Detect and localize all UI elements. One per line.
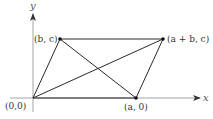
y-axis-label: y [29,0,36,11]
parallelogram-diagram: x y (0,0) (a, 0) (b, c) (a + b, c) [0,0,213,119]
edge-bc-to-origin [33,39,60,98]
x-axis-label: x [203,92,209,103]
parallelogram-diagonals [33,39,163,98]
label-abc: (a + b, c) [167,34,209,44]
label-bc: (b, c) [34,34,58,44]
label-a0: (a, 0) [124,102,148,112]
point-abc [161,37,165,41]
diagonal-bc-to-a0 [60,39,136,98]
point-a0 [134,96,138,100]
edge-a0-to-abc [136,39,163,98]
label-origin: (0,0) [5,101,26,111]
vertex-points [58,37,165,100]
point-bc [58,37,62,41]
